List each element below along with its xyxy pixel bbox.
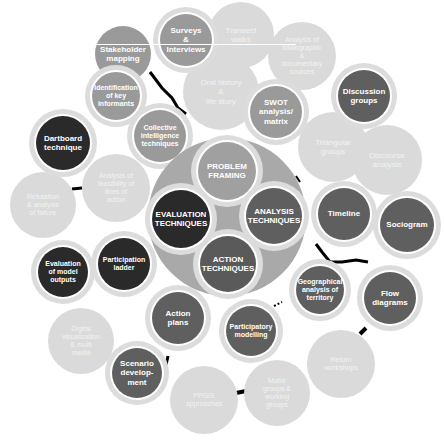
node-return[interactable]: Return workshops <box>307 330 375 398</box>
node-label: Analysis of bibliographic & documentary … <box>280 34 324 78</box>
node-label: Sociogram <box>384 218 429 231</box>
node-feasibility[interactable]: Analysis of feasibility of lines of acti… <box>82 154 150 222</box>
node-action-plans[interactable]: Action plans <box>152 292 204 344</box>
node-geographical[interactable]: Geographical analysis of territory <box>296 266 344 314</box>
node-label: Discourse analysis <box>367 149 407 171</box>
node-discourse[interactable]: Discourse analysis <box>352 125 422 195</box>
node-label: Return workshops <box>322 354 359 374</box>
node-label: PPGIS approaches <box>184 390 225 410</box>
node-label: Collective intelligence techniques <box>139 122 182 150</box>
node-sociogram[interactable]: Sociogram <box>380 198 434 252</box>
node-ppgis[interactable]: PPGIS approaches <box>170 366 238 434</box>
node-label: Evaluation of model outputs <box>43 258 82 286</box>
core-problem-framing[interactable]: PROBLEM FRAMING <box>198 142 256 200</box>
node-label: Scenario develop- ment <box>118 357 156 389</box>
node-discussion[interactable]: Discussion groups <box>338 70 390 122</box>
node-label: Refutation & analysis of failure <box>25 191 61 219</box>
node-bibliographic[interactable]: Analysis of bibliographic & documentary … <box>268 22 336 90</box>
core-label: EVALUATION TECHNIQUES <box>153 208 209 230</box>
node-key-informants[interactable]: Identification of key informants <box>92 72 140 120</box>
node-label: Flow diagrams <box>370 287 410 309</box>
node-label: Participation ladder <box>101 254 147 274</box>
node-motor[interactable]: Motor groups & working groups <box>244 360 310 426</box>
node-label: Discussion groups <box>341 85 388 107</box>
node-refutation[interactable]: Refutation & analysis of failure <box>10 172 76 238</box>
node-label: Identification of key informants <box>92 82 140 110</box>
core-label: PROBLEM FRAMING <box>205 160 249 182</box>
node-label: Oral history & life story <box>199 76 244 108</box>
node-oral-history[interactable]: Oral history & life story <box>183 54 259 130</box>
node-label: Stakeholder mapping <box>98 43 148 65</box>
node-label: Triangular groups <box>313 136 353 158</box>
node-label: Participatory modelling <box>228 321 275 341</box>
node-timeline[interactable]: Timeline <box>318 188 370 240</box>
node-scenario[interactable]: Scenario develop- ment <box>112 348 162 398</box>
node-label: Geographical analysis of territory <box>296 276 345 304</box>
node-label: Surveys & Interviews <box>164 24 207 56</box>
node-label: SWOT analysis/ matrix <box>257 96 295 128</box>
node-label: Digital visualization & multi media <box>60 323 102 359</box>
node-label: Analysis of feasibility of lines of acti… <box>96 170 137 206</box>
divider-line <box>96 44 296 45</box>
node-eval-model[interactable]: Evaluation of model outputs <box>38 247 88 297</box>
node-label: Timeline <box>326 207 362 220</box>
core-action-techniques[interactable]: ACTION TECHNIQUES <box>200 236 256 292</box>
node-label: Dartboard technique <box>42 132 84 154</box>
core-analysis-techniques[interactable]: ANALYSIS TECHNIQUES <box>246 188 302 244</box>
node-flow[interactable]: Flow diagrams <box>364 272 416 324</box>
core-evaluation-techniques[interactable]: EVALUATION TECHNIQUES <box>152 190 210 248</box>
node-label: Action plans <box>164 307 193 329</box>
node-label: Transect walks <box>224 24 259 46</box>
node-label: Motor groups & working groups <box>261 375 293 411</box>
node-participation-ladder[interactable]: Participation ladder <box>98 238 150 290</box>
participatory-techniques-diagram: Transect walks Analysis of bibliographic… <box>0 0 444 441</box>
core-label: ANALYSIS TECHNIQUES <box>246 205 302 227</box>
node-digital[interactable]: Digital visualization & multi media <box>48 308 114 374</box>
node-surveys[interactable]: Surveys & Interviews <box>160 14 212 66</box>
node-swot[interactable]: SWOT analysis/ matrix <box>250 86 302 138</box>
node-participatory-modelling[interactable]: Participatory modelling <box>226 306 276 356</box>
node-dartboard[interactable]: Dartboard technique <box>36 116 90 170</box>
core-label: ACTION TECHNIQUES <box>200 253 256 275</box>
